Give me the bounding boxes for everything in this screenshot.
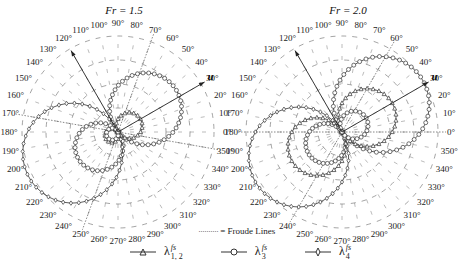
angle-tick-label: 260° [91,234,109,244]
angle-tick-label: 40° [419,57,432,67]
angle-tick-label: 340° [436,164,454,174]
angle-tick-label: 100° [315,20,333,30]
angle-tick-label: 340° [212,164,230,174]
angle-tick-label: 90° [112,18,125,28]
angle-tick-label: 250° [296,229,314,239]
angle-tick-label: 140° [26,57,44,67]
angle-tick-label: 20° [214,90,227,100]
froude-legend: ·········· = Froude Lines [198,226,275,236]
angle-tick-label: 80° [131,20,144,30]
angle-tick-label: 310° [404,210,422,220]
angle-tick-label: 50° [182,44,195,54]
angle-tick-label: 90° [336,18,349,28]
angle-tick-label: 60° [390,33,403,43]
legend: λfs1, 2 λfs3 λfs4 [130,243,351,261]
angle-tick-label: 210° [239,182,257,192]
angle-tick-label: 120° [55,33,73,43]
legend-label: λfs4 [339,243,351,261]
angle-tick-label: 200° [231,164,249,174]
angle-tick-label: 130° [39,44,57,54]
angle-tick-label: 200° [7,164,25,174]
angle-tick-label: 130° [263,44,281,54]
angle-tick-label: 290° [147,229,165,239]
chart-fr-2-0: 0°10°20°30°40°50°60°70°80°90°100°110°120… [224,4,458,246]
angle-tick-label: 120° [279,33,297,43]
angle-tick-label: 290° [371,229,389,239]
circle-marker-icon [221,247,247,257]
angle-tick-label: 310° [180,210,198,220]
angle-tick-label: 190° [226,146,244,156]
angle-tick-label: 80° [355,20,368,30]
chart-title: Fr = 2.0 [328,4,367,16]
angle-tick-label: 70° [373,25,386,35]
legend-label: λfs3 [255,243,267,261]
angle-tick-label: 330° [428,182,446,192]
angle-tick-label: 60° [166,33,179,43]
angle-tick-label: 160° [231,90,249,100]
legend-item-lambda12: λfs1, 2 [130,243,183,261]
legend-item-lambda3: λfs3 [221,243,267,261]
angle-tick-label: 170° [226,108,244,118]
angle-tick-label: 110° [72,25,89,35]
u-axis-label: u [208,70,214,82]
angle-tick-label: 150° [239,73,257,83]
angle-tick-label: 180° [224,127,242,137]
angle-tick-label: 230° [39,210,57,220]
angle-tick-label: 300° [388,221,406,231]
angle-tick-label: 170° [2,108,20,118]
angle-tick-label: 140° [250,57,268,67]
angle-tick-label: 190° [2,146,20,156]
angle-tick-label: 210° [15,182,33,192]
chart-fr-1-5: 0°10°20°30°40°50°60°70°80°90°100°110°120… [0,4,234,246]
angle-tick-label: 70° [149,25,162,35]
angle-tick-label: 0° [447,127,456,137]
angle-tick-label: 10° [443,108,456,118]
triangle-marker-icon [130,247,156,257]
angle-tick-label: 150° [15,73,33,83]
angle-tick-label: 50° [406,44,419,54]
angle-tick-label: 220° [250,197,268,207]
angle-tick-label: 100° [91,20,109,30]
angle-tick-label: 110° [296,25,313,35]
legend-label: λfs1, 2 [164,243,183,261]
froude-label: = Froude Lines [220,226,275,236]
diamond-marker-icon [305,247,331,257]
angle-tick-label: 270° [109,236,127,246]
angle-tick-label: 320° [193,197,211,207]
angle-tick-label: 20° [438,90,451,100]
angle-tick-label: 350° [441,146,459,156]
angle-tick-label: 40° [195,57,208,67]
u-axis-label: u [432,70,438,82]
angle-tick-label: 250° [72,229,90,239]
angle-tick-label: 180° [0,127,18,137]
angle-tick-label: 220° [26,197,44,207]
legend-item-lambda4: λfs4 [305,243,351,261]
angle-tick-label: 320° [417,197,435,207]
angle-tick-label: 330° [204,182,222,192]
angle-tick-label: 240° [279,221,297,231]
chart-title: Fr = 1.5 [104,4,143,16]
angle-tick-label: 160° [7,90,25,100]
angle-tick-label: 300° [164,221,182,231]
angle-tick-label: 230° [263,210,281,220]
angle-tick-label: 240° [55,221,73,231]
angle-tick-label: 280° [352,234,370,244]
